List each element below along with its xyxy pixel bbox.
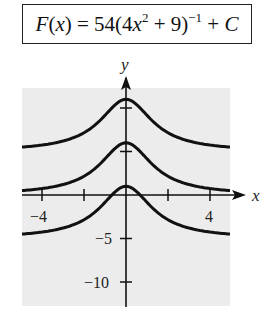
x-tick-label-m4: −4 <box>30 208 47 225</box>
y-tick-label-m5: −5 <box>95 230 112 247</box>
chart: x y −4 4 −5 −10 <box>0 0 273 322</box>
x-tick-label-4: 4 <box>205 208 213 225</box>
x-axis-label: x <box>251 186 260 205</box>
y-axis-label: y <box>119 55 129 74</box>
y-tick-label-m10: −10 <box>84 274 109 291</box>
